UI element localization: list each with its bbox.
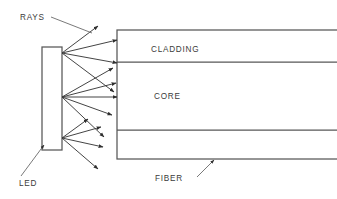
- ray-line: [62, 97, 104, 137]
- rays-leader-line: [51, 17, 92, 33]
- ray-group-top: [62, 26, 117, 92]
- cladding-label: CLADDING: [151, 45, 199, 54]
- fiber-optic-coupling-diagram: RAYS LED CLADDING CORE FIBER: [0, 0, 337, 199]
- ray-line: [62, 53, 117, 63]
- diagram-canvas: RAYS LED CLADDING CORE FIBER: [0, 0, 337, 199]
- ray-line: [62, 119, 88, 138]
- ray-group-bottom: [62, 119, 103, 169]
- rays-label: RAYS: [20, 13, 45, 22]
- fiber-outline: [117, 30, 337, 159]
- ray-line: [62, 97, 112, 115]
- diagram-text-labels: RAYS LED CLADDING CORE FIBER: [19, 13, 199, 188]
- core-label: CORE: [154, 92, 181, 101]
- led-rectangle: [42, 47, 62, 150]
- led-label: LED: [19, 179, 37, 188]
- ray-line: [62, 127, 101, 138]
- led-source: [42, 47, 62, 150]
- fiber-leader-line: [197, 160, 214, 177]
- ray-group-middle: [62, 68, 117, 137]
- led-leader-line: [21, 145, 44, 176]
- fiber-body: [117, 30, 337, 159]
- fiber-label: FIBER: [155, 174, 183, 183]
- ray-line: [62, 53, 114, 92]
- ray-line: [62, 138, 98, 169]
- ray-line: [62, 83, 116, 97]
- ray-line: [62, 138, 103, 147]
